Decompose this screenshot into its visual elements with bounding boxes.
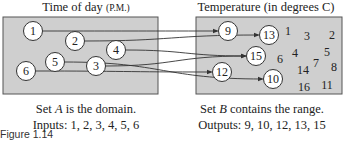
mapping-diagram: 124536913151210 13264578141611 [0, 0, 344, 100]
range-value-2: 2 [329, 28, 335, 42]
range-value-5: 5 [324, 45, 330, 59]
element-label: 10 [267, 72, 279, 86]
range-value-16: 16 [298, 80, 310, 94]
range-value-14: 14 [297, 63, 309, 77]
element-label: 6 [23, 64, 29, 78]
domain-caption-line1: Set A is the domain. [0, 101, 172, 117]
element-label: 13 [263, 28, 275, 42]
element-label: 12 [216, 65, 228, 79]
range-caption-line1: Set B contains the range. [180, 101, 344, 117]
range-value-11: 11 [321, 78, 333, 92]
range-value-1: 1 [285, 24, 291, 38]
range-value-3: 3 [304, 29, 310, 43]
element-label: 2 [72, 34, 78, 48]
range-outputs: Outputs: 9, 10, 12, 13, 15 [180, 117, 344, 133]
range-value-4: 4 [292, 46, 298, 60]
range-value-7: 7 [313, 56, 319, 70]
element-label: 15 [250, 49, 262, 63]
range-value-6: 6 [277, 52, 283, 66]
range-caption: Set B contains the range. Outputs: 9, 10… [180, 101, 344, 133]
element-label: 1 [30, 24, 36, 38]
element-label: 4 [113, 43, 119, 57]
figure-label: Figure 1.14 [0, 128, 53, 140]
element-label: 3 [93, 59, 99, 73]
range-value-8: 8 [331, 60, 337, 74]
element-label: 5 [52, 55, 58, 69]
element-label: 9 [225, 24, 231, 38]
